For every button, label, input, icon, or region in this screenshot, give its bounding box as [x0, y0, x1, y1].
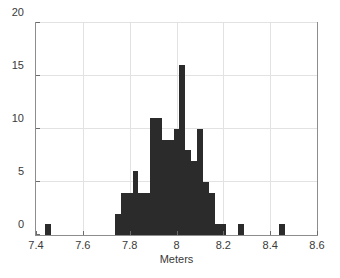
x-tick-mark	[317, 231, 318, 235]
x-tick-mark	[83, 231, 84, 235]
y-tick-mark	[36, 75, 40, 76]
y-tick-mark	[36, 22, 40, 23]
x-tick-mark	[36, 231, 37, 235]
x-tick-label: 8	[173, 240, 179, 251]
histogram-bar	[45, 224, 51, 235]
y-tick-mark	[36, 128, 40, 129]
y-tick-label: 20	[12, 7, 24, 18]
histogram-bars	[36, 23, 317, 235]
histogram-bar	[238, 224, 244, 235]
y-tick-label: 5	[18, 166, 24, 177]
y-tick-label: 0	[18, 219, 24, 230]
histogram-figure: 05101520 7.47.67.888.28.48.6 Meters	[0, 0, 340, 278]
x-tick-mark	[130, 231, 131, 235]
y-tick-label: 15	[12, 60, 24, 71]
x-tick-label: 7.6	[75, 240, 90, 251]
x-tick-mark	[223, 231, 224, 235]
x-tick-label: 7.4	[28, 240, 43, 251]
x-axis-title: Meters	[35, 254, 318, 265]
x-tick-label: 7.8	[122, 240, 137, 251]
x-tick-label: 8.6	[309, 240, 324, 251]
x-tick-label: 8.2	[216, 240, 231, 251]
y-tick-label: 10	[12, 113, 24, 124]
histogram-bar	[279, 224, 285, 235]
x-tick-mark	[177, 231, 178, 235]
x-tick-mark	[270, 231, 271, 235]
y-tick-mark	[36, 181, 40, 182]
plot-area: 05101520 7.47.67.888.28.48.6	[35, 22, 318, 236]
x-tick-label: 8.4	[263, 240, 278, 251]
